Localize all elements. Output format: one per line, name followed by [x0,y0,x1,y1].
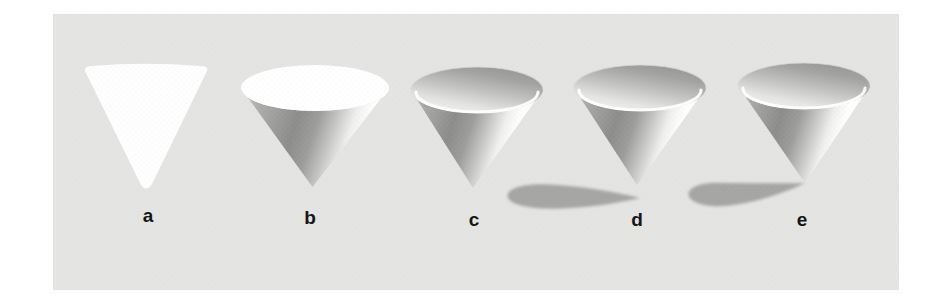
label-e: e [797,209,808,230]
label-c: c [469,209,480,230]
label-d: d [631,209,643,230]
page: a b c d e [0,0,949,303]
cone-shading-figure: a b c d e [0,0,949,303]
label-b: b [304,207,316,228]
label-a: a [143,205,154,226]
cone-b-top-disk [241,65,389,111]
